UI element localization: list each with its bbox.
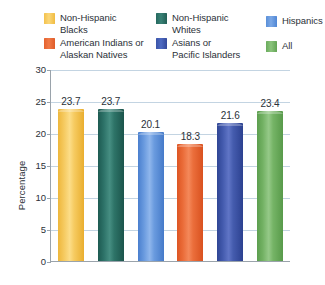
legend-label-line1: Asians or — [172, 37, 211, 48]
legend-swatch-icon — [156, 38, 167, 49]
chart-legend: Non-HispanicBlacks Non-HispanicWhites Hi… — [44, 12, 320, 62]
legend-item-label: All — [282, 40, 292, 52]
y-axis-ticks: 302520151050 — [18, 62, 46, 285]
legend-label-line1: Non-Hispanic — [60, 12, 116, 23]
legend-label-line2: Alaskan Natives — [60, 49, 127, 60]
y-axis-tick-label: 0 — [20, 256, 46, 267]
legend-item-label: American Indians orAlaskan Natives — [60, 37, 144, 60]
legend-swatch-icon — [266, 16, 277, 27]
legend-item-american-indians-or-alaskan-natives: American Indians orAlaskan Natives — [44, 37, 156, 60]
legend-swatch-icon — [44, 13, 55, 24]
bar[interactable] — [217, 123, 243, 261]
bar-slot[interactable]: 23.4 — [256, 70, 284, 261]
y-axis-tick-label: 10 — [20, 192, 46, 203]
plot-area: 23.723.720.118.321.623.4 — [50, 70, 290, 262]
legend-label-line1: American Indians or — [60, 37, 144, 48]
bar-slot[interactable]: 23.7 — [57, 70, 85, 261]
legend-swatch-icon — [266, 41, 277, 52]
bar[interactable] — [257, 111, 283, 261]
y-axis-tick-label: 15 — [20, 160, 46, 171]
bar-value-label: 18.3 — [170, 131, 210, 142]
bar-chart: Percentage 302520151050 23.723.720.118.3… — [0, 62, 325, 285]
y-axis-tick-label: 30 — [20, 64, 46, 75]
bar-slot[interactable]: 23.7 — [97, 70, 125, 261]
legend-label-line2: Whites — [172, 24, 201, 35]
legend-swatch-icon — [44, 38, 55, 49]
bar[interactable] — [177, 144, 203, 261]
bar-series: 23.723.720.118.321.623.4 — [51, 70, 290, 261]
bar-value-label: 23.4 — [250, 98, 290, 109]
legend-item-label: Hispanics — [282, 15, 323, 27]
bar[interactable] — [58, 109, 84, 261]
legend-item-non-hispanic-whites: Non-HispanicWhites — [156, 12, 266, 35]
bar-slot[interactable]: 20.1 — [137, 70, 165, 261]
bar[interactable] — [138, 132, 164, 261]
legend-item-label: Non-HispanicWhites — [172, 12, 228, 35]
legend-label-line2: Pacific Islanders — [172, 49, 240, 60]
y-axis-tickmark — [47, 262, 51, 263]
bar-value-label: 23.7 — [51, 96, 91, 107]
legend-item-asians-or-pacific-islanders: Asians orPacific Islanders — [156, 37, 266, 60]
legend-item-non-hispanic-blacks: Non-HispanicBlacks — [44, 12, 156, 35]
legend-swatch-icon — [156, 13, 167, 24]
legend-label-line1: Non-Hispanic — [172, 12, 228, 23]
legend-item-label: Non-HispanicBlacks — [60, 12, 116, 35]
bar-value-label: 23.7 — [91, 96, 131, 107]
bar-slot[interactable]: 18.3 — [176, 70, 204, 261]
y-axis-tick-label: 5 — [20, 224, 46, 235]
legend-item-hispanics: Hispanics — [266, 12, 320, 27]
bar-slot[interactable]: 21.6 — [216, 70, 244, 261]
bar-value-label: 21.6 — [210, 110, 250, 121]
bar[interactable] — [98, 109, 124, 261]
legend-item-label: Asians orPacific Islanders — [172, 37, 240, 60]
bar-value-label: 20.1 — [131, 119, 171, 130]
y-axis-tick-label: 25 — [20, 96, 46, 107]
y-axis-tick-label: 20 — [20, 128, 46, 139]
legend-item-all: All — [266, 37, 320, 52]
legend-label-line2: Blacks — [60, 24, 88, 35]
